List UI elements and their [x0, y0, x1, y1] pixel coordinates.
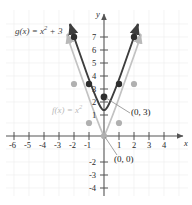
- y-tick-label--4: -4: [89, 184, 96, 193]
- y-axis-label: y: [96, 10, 100, 19]
- y-tick-label-3: 3: [92, 85, 96, 94]
- annotation-point-0-0: (0, 0): [114, 155, 134, 164]
- graph-figure: g(x) = x2 + 3 f(x) = x2 (0, 3) (0, 0) x …: [0, 0, 192, 205]
- x-tick-label--5: -5: [24, 141, 31, 150]
- x-tick-label-1: 1: [117, 141, 121, 150]
- y-tick-label-4: 4: [92, 72, 96, 81]
- annotation-point-0-3: (0, 3): [131, 108, 151, 117]
- x-tick-label--6: -6: [9, 141, 16, 150]
- y-tick-label--3: -3: [89, 171, 96, 180]
- x-tick-label--1: -1: [84, 141, 91, 150]
- y-tick-label-5: 5: [92, 59, 96, 68]
- x-tick-label-4: 4: [162, 141, 166, 150]
- x-tick-label--4: -4: [39, 141, 46, 150]
- y-tick-label-6: 6: [92, 46, 96, 55]
- y-tick-label-2: 2: [92, 98, 96, 107]
- curve-label-f: f(x) = x2: [52, 106, 82, 115]
- curve-label-g: g(x) = x2 + 3: [15, 27, 62, 36]
- background-gridlines: [6, 10, 188, 196]
- x-axis-label: x: [184, 139, 188, 148]
- x-tick-label--2: -2: [69, 141, 76, 150]
- x-tick-label-2: 2: [132, 141, 136, 150]
- y-tick-label--2: -2: [89, 158, 96, 167]
- x-tick-label-3: 3: [147, 141, 151, 150]
- y-tick-label-1: 1: [92, 111, 96, 120]
- x-tick-label--3: -3: [54, 141, 61, 150]
- y-tick-label-7: 7: [92, 33, 96, 42]
